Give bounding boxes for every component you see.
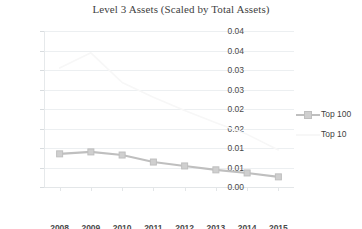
legend-swatch-icon [296,129,320,140]
x-tick-mark [247,187,248,191]
x-tick-mark [122,187,123,191]
data-point-marker [88,149,94,155]
x-tick-mark [185,187,186,191]
legend-label: Top 100 [320,109,351,119]
x-tick-mark [153,187,154,191]
legend-label: Top 10 [320,129,347,139]
series-top-10 [60,53,279,150]
data-point-marker [244,170,250,176]
legend-item[interactable]: Top 10 [296,124,362,144]
x-tick-mark [91,187,92,191]
x-axis-line [44,187,294,188]
x-tick-mark [278,187,279,191]
legend-item[interactable]: Top 100 [296,104,362,124]
data-point-marker [213,167,219,173]
legend-swatch-icon [296,109,320,120]
series-top-100 [57,149,282,180]
data-point-marker [182,163,188,169]
y-tick-mark [40,187,44,188]
series-plot [44,31,294,187]
chart-title: Level 3 Assets (Scaled by Total Assets) [0,3,362,15]
data-point-marker [150,159,156,165]
data-point-marker [57,151,63,157]
data-point-marker [275,174,281,180]
series-line [60,53,279,150]
x-axis-tick-label: 2015 [258,223,298,229]
data-point-marker [119,152,125,158]
x-tick-mark [60,187,61,191]
legend: Top 100Top 10 [296,104,362,144]
plot-area: 0.040.040.030.030.020.020.010.010.00 200… [44,31,294,187]
chart-container: Level 3 Assets (Scaled by Total Assets) … [0,0,362,229]
